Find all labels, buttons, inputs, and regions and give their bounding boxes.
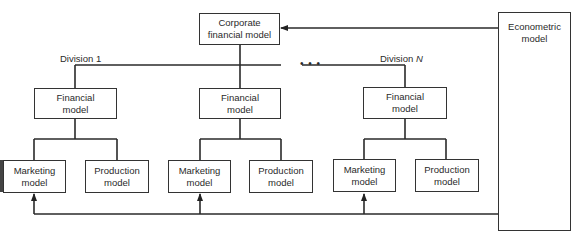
division-2-marketing-model-box: Marketing model xyxy=(168,160,231,193)
box-label: Marketing xyxy=(179,165,221,177)
division-n-label: Division N xyxy=(380,53,423,64)
box-label: Corporate xyxy=(218,17,260,29)
division-1-financial-model-box: Financial model xyxy=(34,88,117,119)
box-label: Production xyxy=(258,165,303,177)
box-label: Financial xyxy=(221,92,259,104)
box-label: Marketing xyxy=(344,164,386,176)
division-2-production-model-box: Production model xyxy=(249,160,313,193)
box-label: model xyxy=(63,104,89,116)
division-2-financial-model-box: Financial model xyxy=(199,88,281,119)
ellipsis: • • • xyxy=(300,58,321,69)
econometric-model-box: Econometric model xyxy=(498,12,571,231)
box-label: model xyxy=(22,177,48,189)
box-label: Econometric xyxy=(508,21,561,33)
box-label: model xyxy=(392,103,418,115)
box-label: model xyxy=(434,176,460,188)
box-label: Financial xyxy=(386,91,424,103)
box-label: Marketing xyxy=(14,165,56,177)
division-1-label: Division 1 xyxy=(60,53,101,64)
division-n-marketing-model-box: Marketing model xyxy=(333,159,396,192)
division-n-financial-model-box: Financial model xyxy=(363,87,447,119)
box-label: model xyxy=(268,177,294,189)
division-1-marketing-model-box: Marketing model xyxy=(3,160,66,193)
box-label: model xyxy=(522,33,548,45)
division-1-production-model-box: Production model xyxy=(85,160,149,193)
box-label: Production xyxy=(94,165,139,177)
box-label: Financial xyxy=(56,92,94,104)
box-label: model xyxy=(104,177,130,189)
box-label: model xyxy=(352,176,378,188)
corporate-financial-model-box: Corporate financial model xyxy=(199,13,280,45)
box-label: model xyxy=(227,104,253,116)
box-label: financial model xyxy=(208,29,271,41)
division-n-production-model-box: Production model xyxy=(415,159,479,192)
box-label: model xyxy=(187,177,213,189)
box-label: Production xyxy=(424,164,469,176)
